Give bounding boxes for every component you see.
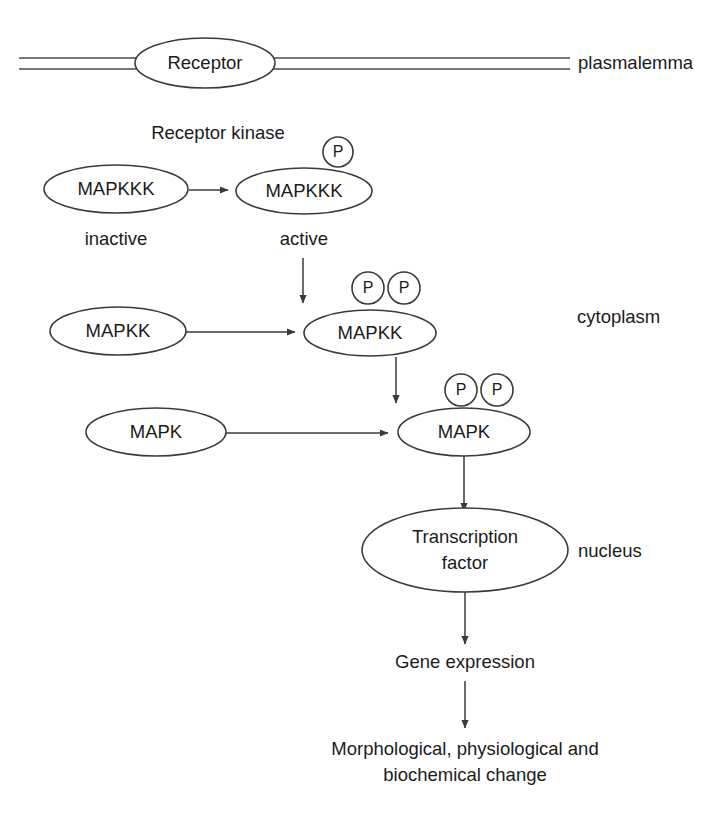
transcription-factor-label-line1: Transcription [412, 526, 518, 547]
pathway-diagram: plasmalemma Receptor Receptor kinase MAP… [0, 0, 728, 820]
receptor-kinase-label: Receptor kinase [151, 122, 285, 143]
receptor-node[interactable]: Receptor [135, 38, 275, 88]
mapkkk-active-node[interactable]: MAPKKK [236, 168, 372, 214]
plasmalemma-label: plasmalemma [578, 52, 694, 73]
transcription-factor-label-line2: factor [442, 552, 488, 573]
gene-expression-label: Gene expression [395, 651, 535, 672]
phosphate-symbol: P [399, 279, 410, 296]
phosphate-symbol: P [363, 279, 374, 296]
mapkk-phosphate-1: P [352, 272, 384, 304]
mapkkk-active-state-label: active [280, 228, 328, 249]
phenotypic-change-label-line1: Morphological, physiological and [331, 738, 598, 759]
nucleus-label: nucleus [578, 540, 642, 561]
mapkk-active-node[interactable]: MAPKK [304, 310, 436, 356]
mapkkk-inactive-node[interactable]: MAPKKK [44, 165, 188, 213]
phenotypic-change-label-line2: biochemical change [383, 764, 547, 785]
phosphate-symbol: P [333, 143, 344, 160]
mapkk-phosphate-2: P [388, 272, 420, 304]
pathway-canvas: plasmalemma Receptor Receptor kinase MAP… [0, 0, 728, 820]
mapkkk-active-label: MAPKKK [265, 180, 343, 201]
mapkk-inactive-label: MAPKK [86, 320, 151, 341]
mapk-phosphate-1: P [445, 374, 477, 406]
transcription-factor-ellipse[interactable] [362, 508, 568, 592]
receptor-label: Receptor [167, 52, 242, 73]
mapk-active-label: MAPK [438, 421, 491, 442]
mapk-inactive-label: MAPK [130, 421, 183, 442]
mapkkk-inactive-label: MAPKKK [77, 178, 155, 199]
mapkk-active-label: MAPKK [338, 322, 403, 343]
transcription-factor-node[interactable]: Transcription factor [362, 508, 568, 592]
mapk-phosphate-2: P [481, 374, 513, 406]
mapkkk-inactive-state-label: inactive [85, 228, 148, 249]
mapkkk-phosphate-1: P [323, 137, 353, 167]
phosphate-symbol: P [492, 381, 503, 398]
phosphate-symbol: P [456, 381, 467, 398]
plasmalemma-group: plasmalemma [19, 52, 694, 73]
cytoplasm-label: cytoplasm [577, 306, 660, 327]
mapk-active-node[interactable]: MAPK [398, 408, 530, 456]
mapkk-inactive-node[interactable]: MAPKK [50, 307, 186, 355]
mapk-inactive-node[interactable]: MAPK [86, 408, 226, 456]
